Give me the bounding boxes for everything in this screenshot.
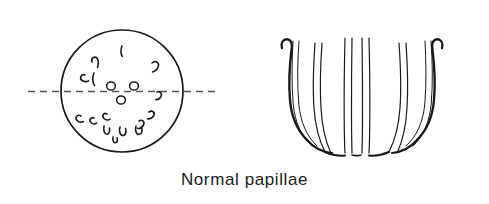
figure-caption: Normal papillae — [0, 170, 489, 190]
figure-container: Normal papillae — [0, 0, 489, 204]
bottom-curve-center — [352, 155, 361, 156]
central-left-line-b — [351, 38, 352, 153]
central-right-line-a — [362, 38, 363, 153]
